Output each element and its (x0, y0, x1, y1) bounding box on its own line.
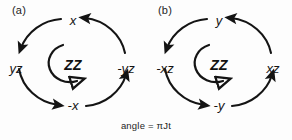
panel-b: (b) y xz -y -xz (146, 0, 292, 140)
panel-b-center-label: ZZ (210, 57, 228, 73)
arc-negyz-to-x (85, 18, 125, 53)
panel-a-label-bottom: -x (67, 98, 78, 113)
arc-negy-to-xz (232, 75, 272, 106)
panel-a-label-left: yz (9, 61, 22, 76)
panel-b-label-right: xz (266, 61, 279, 76)
arc-y-to-negxz (167, 19, 207, 48)
arc-xz-to-y (231, 18, 271, 53)
panel-a-center-label: ZZ (64, 57, 82, 73)
arc-x-to-yz (21, 19, 61, 48)
panel-b-label-top: y (216, 13, 223, 28)
panel-a: (a) (0, 0, 146, 140)
panel-a-label-top: x (70, 13, 77, 28)
panel-a-label-right: -yz (117, 61, 135, 76)
rotation-diagram-figure: (a) (0, 0, 292, 140)
panel-b-label-bottom: -y (213, 98, 224, 113)
arc-negx-to-negyz (86, 75, 126, 106)
figure-caption: angle = πJt (0, 120, 292, 131)
panel-b-label-left: -xz (156, 61, 174, 76)
